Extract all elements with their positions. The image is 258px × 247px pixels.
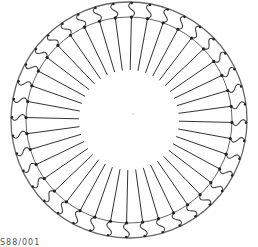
wavy-connector [231, 102, 246, 109]
wavy-connector [93, 7, 101, 21]
wavy-connector [35, 48, 47, 57]
junction-node [130, 15, 133, 18]
spoke [146, 23, 164, 73]
junction-node [178, 224, 180, 226]
junction-node [209, 181, 212, 184]
spoke [80, 164, 105, 211]
wavy-connector [90, 217, 95, 231]
wavy-connector [147, 4, 152, 19]
junction-node [244, 103, 246, 105]
junction-node [157, 217, 160, 220]
middle-ring [26, 17, 232, 223]
spokes-group [26, 17, 232, 223]
junction-node [212, 60, 215, 63]
junction-node [57, 212, 59, 214]
spoke [115, 18, 122, 71]
junction-node [65, 200, 68, 203]
center-dot [132, 113, 133, 114]
junction-node [53, 190, 56, 193]
spoke [165, 49, 203, 86]
junction-node [83, 26, 86, 29]
spoke [110, 169, 120, 221]
junction-node [112, 3, 114, 5]
spoke [178, 129, 230, 139]
spoke [157, 161, 187, 205]
wavy-connector [232, 120, 247, 126]
junction-node [226, 89, 229, 92]
junction-node [220, 74, 223, 77]
junction-node [78, 209, 81, 212]
spoke [138, 19, 148, 71]
junction-node [11, 116, 13, 118]
junction-node [93, 216, 96, 219]
wavy-connector [11, 114, 26, 120]
wavy-connector [57, 202, 66, 214]
junction-node [212, 38, 214, 40]
junction-node [89, 229, 91, 231]
spoke [99, 21, 114, 72]
spoke [32, 86, 82, 104]
spoke [174, 75, 222, 98]
junction-node [125, 236, 127, 238]
figure-caption: S88/001 [0, 238, 40, 247]
wavy-connector [228, 84, 242, 92]
wavy-connector [111, 3, 118, 18]
wavy-connector [25, 64, 38, 71]
spoke [151, 165, 174, 213]
wavy-connector [140, 222, 147, 237]
junction-node [143, 235, 145, 237]
wavy-connector [123, 223, 129, 238]
junction-node [22, 169, 24, 171]
wavy-connector [163, 9, 168, 23]
wavy-connector [13, 98, 28, 103]
junction-node [29, 148, 32, 151]
junction-node [199, 193, 202, 196]
junction-node [229, 137, 232, 140]
spoke [58, 45, 95, 83]
wavy-connector [157, 219, 165, 233]
junction-node [17, 80, 19, 82]
junction-node [26, 100, 29, 103]
junction-node [30, 84, 33, 87]
junction-node [24, 116, 27, 119]
spoke [169, 150, 211, 182]
junction-node [194, 215, 196, 217]
junction-node [240, 85, 242, 87]
junction-node [43, 177, 46, 180]
junction-node [131, 2, 133, 4]
junction-node [35, 48, 37, 50]
spoke [173, 144, 220, 169]
junction-node [221, 190, 223, 192]
junction-node [229, 105, 232, 108]
junction-node [114, 16, 117, 19]
wavy-connector [129, 2, 135, 17]
spoke [127, 170, 128, 223]
spoke [179, 106, 232, 113]
junction-node [202, 47, 205, 50]
spoke [47, 58, 89, 90]
junction-node [109, 220, 112, 223]
junction-node [25, 63, 27, 65]
wavy-connector [191, 26, 200, 38]
junction-node [172, 211, 175, 214]
wavy-connector [230, 138, 245, 143]
wavy-connector [18, 81, 32, 86]
junction-node [35, 163, 38, 166]
junction-node [231, 174, 233, 176]
junction-node [13, 98, 15, 100]
spoke [143, 168, 158, 219]
spoke [30, 134, 81, 149]
junction-node [98, 20, 101, 23]
junction-node [16, 152, 18, 154]
junction-node [25, 132, 28, 135]
spoke [159, 38, 191, 80]
spoke [26, 118, 79, 119]
wavy-connector [107, 221, 112, 236]
spoke [164, 156, 201, 194]
wavy-connector [226, 154, 240, 159]
junction-node [69, 34, 72, 37]
junction-node [186, 203, 189, 206]
spoke [70, 35, 100, 79]
wavy-connector [73, 211, 80, 224]
spoke [38, 71, 85, 96]
